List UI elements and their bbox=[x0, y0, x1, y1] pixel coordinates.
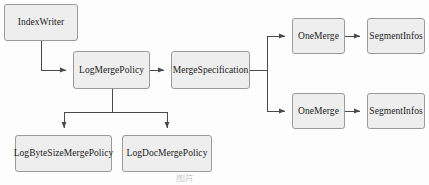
node-label: MergeSpecification bbox=[170, 65, 252, 75]
node-segment-infos-top[interactable]: SegmentInfos bbox=[367, 18, 425, 54]
node-label: SegmentInfos bbox=[366, 106, 425, 116]
node-one-merge-bottom[interactable]: OneMerge bbox=[292, 93, 345, 129]
diagram-canvas: IndexWriter LogMergePolicy MergeSpecific… bbox=[0, 0, 429, 185]
caption-strip: 图片 bbox=[0, 174, 429, 185]
node-label: LogDocMergePolicy bbox=[124, 148, 211, 158]
node-segment-infos-bottom[interactable]: SegmentInfos bbox=[367, 93, 425, 129]
node-log-doc-merge-policy[interactable]: LogDocMergePolicy bbox=[122, 135, 212, 172]
edge-logmergepolicy-to-logbytesize bbox=[64, 89, 112, 128]
edge-indexwriter-to-logmergepolicy bbox=[41, 41, 66, 70]
node-label: LogByteSizeMergePolicy bbox=[11, 148, 117, 158]
node-log-byte-size-merge-policy[interactable]: LogByteSizeMergePolicy bbox=[15, 135, 112, 172]
node-merge-specification[interactable]: MergeSpecification bbox=[171, 51, 250, 89]
node-label: LogMergePolicy bbox=[76, 65, 147, 75]
node-label: SegmentInfos bbox=[366, 31, 425, 41]
node-one-merge-top[interactable]: OneMerge bbox=[292, 18, 345, 54]
node-log-merge-policy[interactable]: LogMergePolicy bbox=[73, 51, 150, 89]
node-label: IndexWriter bbox=[15, 17, 68, 27]
edge-mergespec-to-onemerge-top bbox=[250, 36, 285, 70]
node-index-writer[interactable]: IndexWriter bbox=[4, 4, 78, 41]
node-label: OneMerge bbox=[295, 106, 342, 116]
edge-logmergepolicy-to-logdoc bbox=[112, 112, 167, 128]
edge-mergespec-to-onemerge-bottom bbox=[267, 70, 285, 111]
caption-text: 图片 bbox=[176, 174, 194, 184]
node-label: OneMerge bbox=[295, 31, 342, 41]
